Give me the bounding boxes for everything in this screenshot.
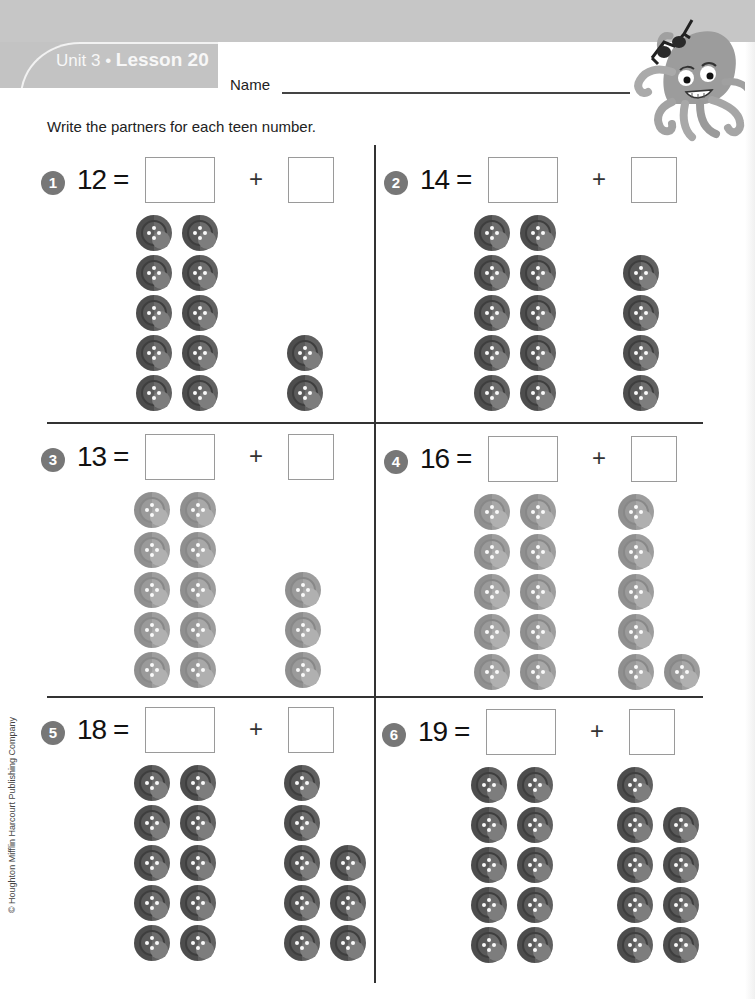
button-counter-icon	[623, 295, 659, 331]
tens-answer-box[interactable]	[145, 707, 215, 753]
button-counter-icon	[287, 335, 323, 371]
button-counter-icon	[520, 574, 556, 610]
teen-number: 18 =	[77, 714, 128, 746]
button-counter-icon	[134, 532, 170, 568]
button-counter-icon	[618, 574, 654, 610]
button-counter-icon	[284, 765, 320, 801]
plus-sign: +	[592, 444, 606, 472]
button-counter-icon	[617, 807, 653, 843]
tens-answer-box[interactable]	[488, 157, 558, 203]
ones-answer-box[interactable]	[288, 707, 334, 753]
equals-sign: =	[454, 716, 469, 747]
plus-sign: +	[592, 165, 606, 193]
button-counter-icon	[623, 255, 659, 291]
equals-sign: =	[456, 443, 471, 474]
button-counter-icon	[471, 927, 507, 963]
button-counter-icon	[136, 295, 172, 331]
plus-sign: +	[249, 442, 263, 470]
button-counter-icon	[136, 255, 172, 291]
teen-number-value: 13	[77, 441, 106, 472]
problem-number-badge: 1	[41, 171, 65, 195]
button-counter-icon	[134, 572, 170, 608]
button-counter-icon	[474, 335, 510, 371]
button-counter-icon	[285, 652, 321, 688]
button-counter-icon	[182, 295, 218, 331]
problem-number-badge: 2	[384, 171, 408, 195]
button-counter-icon	[517, 807, 553, 843]
tens-answer-box[interactable]	[488, 436, 558, 482]
ones-answer-box[interactable]	[631, 436, 677, 482]
button-counter-icon	[517, 767, 553, 803]
button-counter-icon	[517, 927, 553, 963]
problem-number-badge: 4	[384, 450, 408, 474]
button-counter-icon	[134, 492, 170, 528]
button-counter-icon	[180, 612, 216, 648]
button-counter-icon	[474, 375, 510, 411]
button-counter-icon	[182, 215, 218, 251]
button-counter-icon	[618, 494, 654, 530]
equals-sign: =	[113, 441, 128, 472]
unit-label: Unit 3 •	[56, 51, 116, 70]
name-write-line[interactable]	[282, 92, 630, 94]
octopus-with-sunglasses-icon	[600, 12, 755, 142]
tens-answer-box[interactable]	[486, 709, 556, 755]
button-counter-icon	[134, 885, 170, 921]
button-counter-icon	[284, 885, 320, 921]
plus-sign: +	[249, 715, 263, 743]
copyright-text: © Houghton Mifflin Harcourt Publishing C…	[7, 705, 17, 925]
button-counter-icon	[474, 215, 510, 251]
tens-answer-box[interactable]	[145, 157, 215, 203]
teen-number-value: 16	[420, 443, 449, 474]
lesson-label: Unit 3 • Lesson 20	[56, 49, 209, 71]
button-counter-icon	[180, 845, 216, 881]
ones-answer-box[interactable]	[629, 709, 675, 755]
button-counter-icon	[136, 335, 172, 371]
name-label: Name	[230, 76, 270, 93]
button-counter-icon	[134, 925, 170, 961]
plus-sign: +	[249, 165, 263, 193]
button-counter-icon	[474, 534, 510, 570]
button-counter-icon	[617, 887, 653, 923]
vertical-divider	[374, 145, 376, 983]
button-counter-icon	[520, 295, 556, 331]
button-counter-icon	[180, 885, 216, 921]
teen-number: 12 =	[77, 164, 128, 196]
button-counter-icon	[520, 255, 556, 291]
button-counter-icon	[182, 255, 218, 291]
button-counter-icon	[330, 845, 366, 881]
instructions-text: Write the partners for each teen number.	[47, 118, 316, 135]
teen-number-value: 19	[418, 716, 447, 747]
button-counter-icon	[330, 925, 366, 961]
tens-answer-box[interactable]	[145, 434, 215, 480]
button-counter-icon	[474, 614, 510, 650]
button-counter-icon	[618, 654, 654, 690]
button-counter-icon	[663, 887, 699, 923]
teen-number: 19 =	[418, 716, 469, 748]
button-counter-icon	[474, 255, 510, 291]
button-counter-icon	[471, 807, 507, 843]
ones-answer-box[interactable]	[631, 157, 677, 203]
button-counter-icon	[520, 335, 556, 371]
button-counter-icon	[617, 847, 653, 883]
equals-sign: =	[113, 714, 128, 745]
button-counter-icon	[474, 295, 510, 331]
button-counter-icon	[663, 807, 699, 843]
ones-answer-box[interactable]	[288, 157, 334, 203]
button-counter-icon	[471, 767, 507, 803]
button-counter-icon	[136, 215, 172, 251]
problem-number-badge: 5	[41, 721, 65, 745]
button-counter-icon	[134, 765, 170, 801]
button-counter-icon	[520, 654, 556, 690]
button-counter-icon	[285, 612, 321, 648]
button-counter-icon	[474, 654, 510, 690]
button-counter-icon	[180, 765, 216, 801]
button-counter-icon	[520, 215, 556, 251]
teen-number-value: 14	[420, 164, 449, 195]
button-counter-icon	[517, 847, 553, 883]
button-counter-icon	[134, 805, 170, 841]
button-counter-icon	[180, 492, 216, 528]
ones-answer-box[interactable]	[288, 434, 334, 480]
button-counter-icon	[284, 805, 320, 841]
button-counter-icon	[285, 572, 321, 608]
button-counter-icon	[618, 614, 654, 650]
